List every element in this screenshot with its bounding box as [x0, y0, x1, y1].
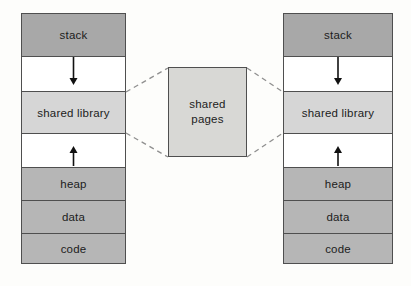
stack-growth-gap-right — [284, 57, 392, 92]
segment-label: stack — [324, 29, 352, 41]
shared-pages-box: shared pages — [168, 67, 247, 157]
heap-growth-gap-left — [22, 134, 125, 168]
dashed-connector-right-bottom — [247, 133, 283, 157]
shared-pages-label-line2: pages — [191, 112, 223, 127]
segment-heap-left: heap — [22, 168, 125, 201]
segment-heap-right: heap — [284, 168, 392, 201]
segment-data-left: data — [22, 201, 125, 234]
shared-pages-label-line1: shared — [189, 97, 225, 112]
dashed-connector-left-bottom — [126, 133, 168, 157]
segment-label: shared library — [37, 107, 109, 119]
segment-label: heap — [60, 178, 86, 190]
segment-label: code — [61, 243, 87, 255]
stack-growth-gap-left — [22, 57, 125, 92]
segment-stack-right: stack — [284, 14, 392, 57]
dashed-connector-right-top — [247, 68, 283, 92]
segment-shared-library-left: shared library — [22, 92, 125, 134]
segment-data-right: data — [284, 201, 392, 234]
segment-label: heap — [325, 178, 351, 190]
segment-shared-library-right: shared library — [284, 92, 392, 134]
segment-stack-left: stack — [22, 14, 125, 57]
segment-label: code — [325, 243, 351, 255]
process-memory-left: stack shared library heap data code — [21, 13, 126, 264]
segment-label: shared library — [302, 107, 374, 119]
segment-label: stack — [60, 29, 88, 41]
heap-growth-gap-right — [284, 134, 392, 168]
segment-label: data — [62, 211, 85, 223]
process-memory-right: stack shared library heap data code — [283, 13, 393, 264]
memory-sharing-diagram: stack shared library heap data code stac… — [0, 0, 411, 286]
segment-code-right: code — [284, 234, 392, 263]
segment-code-left: code — [22, 234, 125, 263]
segment-label: data — [326, 211, 349, 223]
dashed-connector-left-top — [126, 68, 168, 92]
